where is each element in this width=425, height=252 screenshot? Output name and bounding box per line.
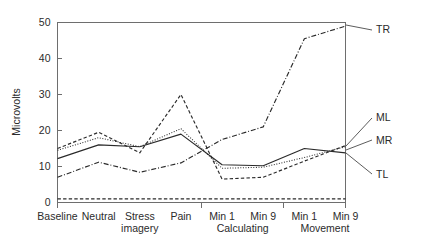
x-group-label-0: Calculating <box>217 222 269 234</box>
axis-box <box>58 23 346 203</box>
series-label-tl: TL <box>376 168 388 180</box>
leader-line-tr <box>346 25 372 30</box>
y-tick-label: 50 <box>39 16 51 28</box>
x-tick-label-0: Baseline <box>37 210 77 222</box>
y-tick-label: 30 <box>39 88 51 100</box>
x-tick-label-6: Min 1 <box>292 210 318 222</box>
y-tick-label: 0 <box>45 196 51 208</box>
x-tick-label-4: Min 1 <box>209 210 235 222</box>
x-tick-label-3: Pain <box>170 210 191 222</box>
leader-line-tl <box>346 153 372 174</box>
chart-container: 01020304050 Microvolts BaselineNeutralSt… <box>0 0 425 252</box>
x-tick-label-2: Stress <box>125 210 155 222</box>
series-group <box>58 26 346 199</box>
series-line-tl <box>58 95 346 180</box>
series-edge-annotations: TR ML MR TL <box>346 23 393 180</box>
series-line-mr <box>58 134 346 166</box>
x-tick-label-sub-2: imagery <box>121 222 159 234</box>
x-axis-group-labels: CalculatingMovement <box>217 222 350 234</box>
series-label-mr: MR <box>376 134 393 146</box>
y-tick-label: 20 <box>39 124 51 136</box>
x-axis-group-ticks <box>58 203 346 208</box>
line-chart: 01020304050 Microvolts BaselineNeutralSt… <box>0 0 425 252</box>
series-label-ml: ML <box>376 111 391 123</box>
y-axis-title: Microvolts <box>10 88 22 135</box>
series-label-tr: TR <box>376 23 390 35</box>
plot-frame <box>58 23 346 203</box>
y-tick-label: 40 <box>39 52 51 64</box>
y-axis-tick-labels: 01020304050 <box>39 16 51 208</box>
series-line-tr <box>58 26 346 177</box>
x-tick-label-7: Min 9 <box>333 210 359 222</box>
y-tick-label: 10 <box>39 160 51 172</box>
x-group-label-1: Movement <box>300 222 349 234</box>
x-tick-label-1: Neutral <box>82 210 116 222</box>
x-tick-label-5: Min 9 <box>250 210 276 222</box>
